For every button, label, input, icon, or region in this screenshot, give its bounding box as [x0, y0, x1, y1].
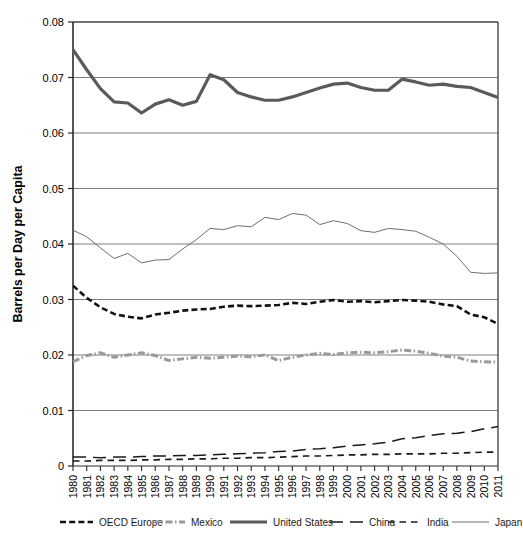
- series-line-united-states: [73, 50, 498, 113]
- x-axis-tick-label: 2001: [355, 475, 367, 499]
- x-axis-tick-label: 1990: [204, 475, 216, 499]
- oil-consumption-per-capita-line-chart: 00.010.020.030.040.050.060.070.08 198019…: [0, 0, 523, 543]
- x-axis-tick-labels: 1980198119821983198419851986198719881989…: [67, 466, 504, 498]
- y-axis-tick-label: 0.05: [43, 183, 64, 195]
- x-axis-tick-label: 2009: [465, 475, 477, 499]
- x-axis-tick-label: 2002: [369, 475, 381, 499]
- y-axis-tick-label: 0.04: [43, 238, 64, 250]
- data-series-layer: [73, 50, 498, 461]
- x-axis-tick-label: 1996: [286, 475, 298, 499]
- y-axis-tick-label: 0.06: [43, 127, 64, 139]
- y-axis-tick-label: 0.02: [43, 349, 64, 361]
- legend-label: Japan: [495, 517, 522, 528]
- x-axis-tick-label: 2000: [341, 475, 353, 499]
- x-axis-tick-label: 1981: [81, 475, 93, 499]
- legend-label: United States: [273, 517, 333, 528]
- x-axis-tick-label: 2006: [423, 475, 435, 499]
- x-axis-tick-label: 1991: [218, 475, 230, 499]
- x-axis-tick-label: 1983: [108, 475, 120, 499]
- x-axis-tick-label: 1992: [232, 475, 244, 499]
- x-axis-tick-label: 2005: [410, 475, 422, 499]
- x-axis-tick-label: 1989: [190, 475, 202, 499]
- x-axis-tick-label: 1994: [259, 475, 271, 499]
- x-axis-tick-label: 1998: [314, 475, 326, 499]
- legend-item-japan[interactable]: Japan: [452, 517, 522, 528]
- series-line-oecd-europe: [73, 286, 498, 324]
- legend-item-united-states[interactable]: United States: [230, 517, 333, 528]
- x-axis-tick-label: 2008: [451, 475, 463, 499]
- x-axis-tick-label: 1997: [300, 475, 312, 499]
- x-axis-tick-label: 1987: [163, 475, 175, 499]
- x-axis-tick-label: 2011: [492, 475, 504, 498]
- series-line-mexico: [73, 350, 498, 362]
- y-axis-tick-label: 0.07: [43, 72, 64, 84]
- series-line-japan: [73, 213, 498, 273]
- y-axis-tick-label: 0: [58, 460, 64, 472]
- x-axis-tick-label: 1980: [67, 475, 79, 499]
- x-axis-tick-label: 1982: [94, 475, 106, 499]
- x-axis-tick-label: 1993: [245, 475, 257, 499]
- y-axis-tick-label: 0.08: [43, 16, 64, 28]
- x-axis-tick-label: 1995: [273, 475, 285, 499]
- x-axis-tick-label: 1984: [122, 475, 134, 499]
- y-axis-tick-labels: 00.010.020.030.040.050.060.070.08: [43, 16, 73, 472]
- chart-container: 00.010.020.030.040.050.060.070.08 198019…: [0, 0, 523, 543]
- legend-label: India: [427, 517, 449, 528]
- x-axis-tick-label: 1985: [136, 475, 148, 499]
- y-axis-tick-label: 0.03: [43, 294, 64, 306]
- legend-item-india[interactable]: India: [388, 517, 449, 528]
- x-axis-tick-label: 1988: [177, 475, 189, 499]
- y-axis-tick-label: 0.01: [43, 405, 64, 417]
- legend-item-oecd-europe[interactable]: OECD Europe: [60, 517, 163, 528]
- x-axis-tick-label: 2010: [478, 475, 490, 499]
- x-axis-tick-label: 2003: [382, 475, 394, 499]
- x-axis-tick-label: 2004: [396, 475, 408, 499]
- x-axis-tick-label: 2007: [437, 475, 449, 499]
- legend-label: Mexico: [191, 517, 223, 528]
- y-axis-title: Barrels per Day per Capita: [11, 164, 25, 322]
- legend-item-china[interactable]: China: [330, 517, 396, 528]
- x-axis-tick-label: 1986: [149, 475, 161, 499]
- chart-legend: OECD EuropeMexicoUnited StatesChinaIndia…: [60, 517, 522, 528]
- x-axis-tick-label: 1999: [327, 475, 339, 499]
